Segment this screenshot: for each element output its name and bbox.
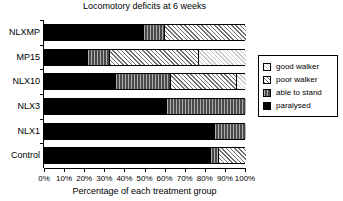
segment-paralysed <box>45 74 115 89</box>
segment-able-to-stand <box>87 50 109 65</box>
x-axis-tick <box>124 168 125 172</box>
legend-label: paralysed <box>276 101 311 110</box>
stacked-bar <box>44 49 245 66</box>
segment-poor-walker <box>109 50 197 65</box>
segment-paralysed <box>45 25 143 40</box>
x-axis-tick <box>165 168 166 172</box>
legend-item-poor-walker: poor walker <box>263 73 334 86</box>
segment-poor-walker <box>164 25 246 40</box>
segment-able-to-stand <box>210 148 218 163</box>
segment-able-to-stand <box>143 25 163 40</box>
solid-black-swatch-icon <box>263 102 271 110</box>
x-axis-tick-label: 30% <box>96 174 112 183</box>
segment-paralysed <box>45 99 166 114</box>
locomotory-deficits-bar-chart: Locomotory deficits at 6 weeks NLXMPMP15… <box>0 0 343 201</box>
plot-area <box>44 20 245 168</box>
x-axis-tick <box>225 168 226 172</box>
x-axis-tick-label: 0% <box>38 174 50 183</box>
x-axis-tick <box>64 168 65 172</box>
x-axis-tick-label: 80% <box>197 174 213 183</box>
bar-row <box>44 147 245 164</box>
legend-label: able to stand <box>276 88 322 97</box>
segment-paralysed <box>45 50 87 65</box>
category-label-nlxmp: NLXMP <box>9 27 40 38</box>
x-axis-tick <box>44 168 45 172</box>
stacked-bar <box>44 98 245 115</box>
diagonal-hatch-swatch-icon <box>263 76 271 84</box>
stacked-bar <box>44 73 245 90</box>
stacked-bar <box>44 147 245 164</box>
x-axis-tick <box>104 168 105 172</box>
category-axis-labels: NLXMPMP15NLX10NLX3NLX1Control <box>0 20 40 168</box>
bar-row <box>44 73 245 90</box>
x-axis-tick <box>245 168 246 172</box>
category-label-control: Control <box>11 150 40 161</box>
x-axis-tick-label: 40% <box>116 174 132 183</box>
x-axis-tick <box>205 168 206 172</box>
x-axis-tick <box>185 168 186 172</box>
segment-poor-walker <box>170 74 236 89</box>
x-axis-tick-label: 90% <box>217 174 233 183</box>
bar-row <box>44 49 245 66</box>
checkered-light-swatch-icon <box>263 63 271 71</box>
x-axis-tick-label: 10% <box>56 174 72 183</box>
dark-vertical-hatch-swatch-icon <box>263 89 271 97</box>
legend-label: poor walker <box>276 75 317 84</box>
segment-able-to-stand <box>214 124 246 139</box>
x-axis-tick-label: 20% <box>76 174 92 183</box>
stacked-bar <box>44 24 245 41</box>
bar-row <box>44 98 245 115</box>
x-axis-tick <box>145 168 146 172</box>
segment-good-walker <box>198 50 246 65</box>
category-label-nlx10: NLX10 <box>12 76 40 87</box>
segment-able-to-stand <box>115 74 169 89</box>
x-axis-tick-label: 60% <box>157 174 173 183</box>
x-axis-tick-label: 100% <box>235 174 255 183</box>
legend-item-able-to-stand: able to stand <box>263 86 334 99</box>
segment-paralysed <box>45 148 210 163</box>
legend-item-good-walker: good walker <box>263 60 334 73</box>
legend-item-paralysed: paralysed <box>263 99 334 112</box>
chart-legend: good walker poor walker able to stand pa… <box>258 55 338 117</box>
bar-row <box>44 24 245 41</box>
category-label-mp15: MP15 <box>16 52 40 63</box>
x-axis-tick-label: 50% <box>136 174 152 183</box>
x-axis-tick <box>84 168 85 172</box>
segment-paralysed <box>45 124 214 139</box>
legend-label: good walker <box>276 62 319 71</box>
chart-title: Locomotory deficits at 6 weeks <box>44 1 245 12</box>
x-axis-tick-label: 70% <box>177 174 193 183</box>
category-label-nlx1: NLX1 <box>17 126 40 137</box>
x-axis-title: Percentage of each treatment group <box>44 186 245 197</box>
stacked-bar <box>44 123 245 140</box>
segment-able-to-stand <box>166 99 246 114</box>
category-label-nlx3: NLX3 <box>17 101 40 112</box>
segment-poor-walker <box>218 148 246 163</box>
bar-row <box>44 123 245 140</box>
segment-good-walker <box>236 74 246 89</box>
